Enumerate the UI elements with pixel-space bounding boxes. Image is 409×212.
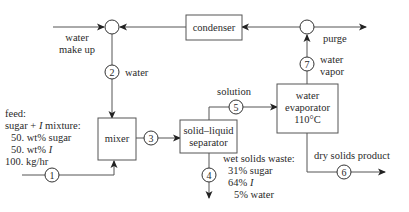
separator-label-1: solid–liquid [183, 125, 234, 136]
stream-1-tag: 1 [45, 168, 59, 182]
purge-splitter [300, 20, 314, 34]
feed-line-5: 100. kg/hr [5, 156, 81, 168]
stream-2-label: water [125, 67, 149, 78]
stream-7-label-1: water [320, 54, 344, 65]
mixer-label: mixer [105, 133, 130, 144]
svg-text:1: 1 [50, 170, 55, 181]
makeup-junction [105, 20, 119, 34]
evaporator-label-3: 110°C [294, 114, 321, 125]
svg-text:7: 7 [305, 59, 310, 70]
feed-line-1: feed: [5, 108, 81, 120]
evaporator-label-2: evaporator [285, 102, 330, 113]
stream-5-label: solution [217, 86, 252, 97]
feed-annotation: feed: sugar + I mixture: 50. wt% sugar 5… [5, 108, 81, 168]
stream-4-tag: 4 [202, 168, 216, 182]
stream-3-tag: 3 [144, 131, 158, 145]
svg-text:5: 5 [234, 102, 239, 113]
svg-text:3: 3 [149, 133, 154, 144]
stream-6-label: dry solids product [314, 150, 390, 161]
makeup-label-2: make up [59, 44, 95, 55]
feed-line-3: 50. wt% sugar [5, 132, 81, 144]
svg-text:2: 2 [110, 67, 115, 78]
waste-line-1: wet solids waste: [223, 153, 295, 165]
separator-label-2: separator [189, 137, 228, 148]
waste-line-3: 64% I [223, 177, 295, 189]
svg-text:4: 4 [207, 170, 212, 181]
condenser-label: condenser [193, 22, 236, 33]
waste-annotation: wet solids waste: 31% sugar 64% I 5% wat… [223, 153, 295, 201]
stream-5-tag: 5 [229, 100, 243, 114]
waste-line-2: 31% sugar [223, 165, 295, 177]
feed-line-4: 50. wt% I [5, 144, 81, 156]
stream-2-tag: 2 [105, 65, 119, 79]
stream-7-tag: 7 [300, 57, 314, 71]
process-flow-diagram: condenser mixer solid–liquid separator w… [0, 0, 409, 212]
svg-text:6: 6 [342, 167, 347, 178]
makeup-label-1: water [65, 32, 89, 43]
stream-6-tag: 6 [337, 165, 351, 179]
stream-7-label-2: vapor [320, 66, 344, 77]
purge-label: purge [323, 33, 347, 44]
feed-line-2: sugar + I mixture: [5, 120, 81, 132]
evaporator-label-1: water [296, 90, 320, 101]
waste-line-4: 5% water [223, 189, 295, 201]
